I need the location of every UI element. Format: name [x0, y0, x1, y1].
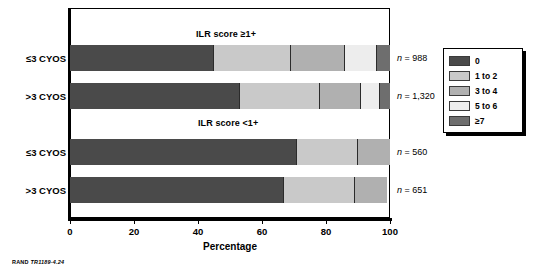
legend: 01 to 23 to 45 to 6≥7 [443, 48, 523, 133]
sample-size-label: n = 560 [397, 147, 427, 157]
legend-item: 0 [449, 53, 517, 68]
bar-segment [291, 45, 345, 71]
category-label: >3 CYOS [4, 185, 66, 196]
bar-segment [355, 177, 387, 203]
bar-segment [380, 83, 390, 109]
source-note-prefix: RAND [12, 259, 30, 265]
legend-label: 0 [475, 56, 480, 66]
stacked-bar [70, 177, 390, 203]
x-tick [390, 219, 391, 224]
x-axis-line [68, 218, 392, 221]
legend-item: ≥7 [449, 113, 517, 128]
x-tick [70, 219, 71, 224]
bar-segment [284, 177, 354, 203]
x-tick [198, 219, 199, 224]
x-axis-title: Percentage [0, 241, 460, 252]
bar-segment [70, 45, 214, 71]
stacked-bar [70, 45, 390, 71]
x-tick-label: 20 [129, 226, 140, 237]
x-tick-label: 40 [193, 226, 204, 237]
group-title-ilr-ge1: ILR score ≥1+ [196, 29, 256, 39]
stacked-bar [70, 83, 390, 109]
category-label: ≤3 CYOS [4, 147, 66, 158]
legend-swatch [449, 116, 470, 126]
sample-size-label: n = 988 [397, 53, 427, 63]
legend-item: 3 to 4 [449, 83, 517, 98]
x-tick-label: 0 [67, 226, 72, 237]
x-tick-label: 100 [382, 226, 398, 237]
group-title-ilr-lt1: ILR score <1+ [198, 118, 258, 128]
bar-segment [320, 83, 362, 109]
bar-segment [377, 45, 390, 71]
legend-item: 5 to 6 [449, 98, 517, 113]
legend-label: 1 to 2 [475, 71, 497, 81]
bar-segment [70, 83, 240, 109]
legend-label: 5 to 6 [475, 101, 497, 111]
source-note-id: TR1189-4.24 [30, 259, 64, 265]
legend-swatch [449, 86, 470, 96]
category-label: ≤3 CYOS [4, 53, 66, 64]
sample-size-label: n = 1,320 [397, 91, 435, 101]
x-tick [326, 219, 327, 224]
source-note: RAND TR1189-4.24 [12, 259, 64, 265]
bar-segment [214, 45, 291, 71]
legend-label: 3 to 4 [475, 86, 497, 96]
bar-segment [361, 83, 380, 109]
bar-segment [297, 139, 358, 165]
legend-swatch [449, 71, 470, 81]
bar-segment [70, 139, 297, 165]
x-tick-label: 60 [257, 226, 268, 237]
legend-swatch [449, 101, 470, 111]
x-tick [134, 219, 135, 224]
x-tick [262, 219, 263, 224]
stacked-bar [70, 139, 390, 165]
bar-segment [358, 139, 390, 165]
category-label: >3 CYOS [4, 91, 66, 102]
legend-item: 1 to 2 [449, 68, 517, 83]
legend-swatch [449, 56, 470, 66]
bar-segment [240, 83, 320, 109]
bar-segment [345, 45, 377, 71]
sample-size-label: n = 651 [397, 185, 427, 195]
legend-label: ≥7 [475, 116, 484, 126]
x-tick-label: 80 [321, 226, 332, 237]
bar-segment [70, 177, 284, 203]
